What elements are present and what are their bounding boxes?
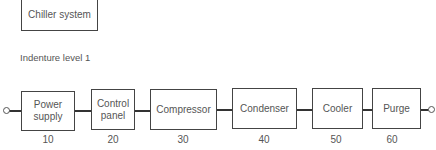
block-number: 30 bbox=[163, 134, 203, 145]
block-number: 50 bbox=[316, 134, 356, 145]
block-label: Cooler bbox=[323, 103, 352, 115]
connector-20-30 bbox=[134, 110, 150, 112]
indenture-level-label: Indenture level 1 bbox=[20, 52, 90, 63]
block-number: 40 bbox=[244, 134, 284, 145]
output-terminal-icon bbox=[428, 106, 435, 113]
connector-50-60 bbox=[362, 109, 372, 111]
input-terminal-icon bbox=[3, 107, 10, 114]
connector-30-40 bbox=[216, 109, 232, 111]
block-compressor: Compressor bbox=[150, 89, 217, 130]
block-condenser: Condenser bbox=[232, 88, 297, 129]
block-purge: Purge bbox=[372, 88, 421, 129]
block-power-supply: Power supply bbox=[21, 91, 75, 131]
block-control-panel: Control panel bbox=[91, 89, 135, 130]
connector-40-50 bbox=[296, 109, 312, 111]
block-label: Power supply bbox=[34, 99, 63, 123]
block-label: Purge bbox=[383, 103, 410, 115]
connector-10-20 bbox=[74, 110, 91, 112]
block-number: 10 bbox=[28, 134, 68, 145]
block-cooler: Cooler bbox=[312, 88, 363, 129]
block-label: Condenser bbox=[240, 103, 289, 115]
block-number: 60 bbox=[372, 134, 412, 145]
system-box-label: Chiller system bbox=[28, 9, 91, 21]
block-label: Control panel bbox=[97, 98, 129, 122]
system-box: Chiller system bbox=[21, 0, 98, 31]
block-number: 20 bbox=[93, 134, 133, 145]
block-label: Compressor bbox=[156, 104, 210, 116]
